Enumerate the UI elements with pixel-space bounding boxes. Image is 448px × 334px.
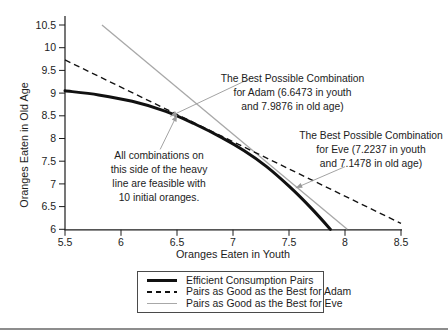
annotation-feasible-set: All combinations on this side of the hea… bbox=[99, 149, 219, 205]
y-tick-label: 9 bbox=[50, 87, 56, 99]
y-tick-label: 7.5 bbox=[41, 155, 56, 167]
x-axis-title: Oranges Eaten in Youth bbox=[176, 248, 290, 260]
y-tick-label: 7 bbox=[50, 178, 56, 190]
annotation-feasible-line2: this side of the heavy bbox=[99, 163, 219, 177]
x-tick-label: 7 bbox=[230, 236, 236, 248]
x-tick-label: 5.5 bbox=[58, 236, 73, 248]
adam-line-swatch bbox=[147, 291, 177, 293]
legend-item-eve: Pairs as Good as the Best for Eve bbox=[147, 298, 323, 309]
legend-item-efficient: Efficient Consumption Pairs bbox=[147, 275, 323, 286]
x-tick-label: 8 bbox=[342, 236, 348, 248]
y-tick-label: 6.5 bbox=[41, 200, 56, 212]
y-axis-title: Oranges Eaten in Old Age bbox=[18, 82, 30, 207]
y-tick-label: 10 bbox=[44, 41, 56, 53]
annotation-eve-line2: for Eve (7.2237 in youth bbox=[297, 143, 445, 157]
legend-label-eve: Pairs as Good as the Best for Eve bbox=[186, 298, 343, 309]
annotation-eve-line1: The Best Possible Combination bbox=[297, 129, 445, 143]
x-tick-label: 6 bbox=[118, 236, 124, 248]
annotation-eve-best: The Best Possible Combination for Eve (7… bbox=[297, 129, 445, 171]
annotation-adam-line1: The Best Possible Combination bbox=[210, 72, 375, 86]
legend: Efficient Consumption Pairs Pairs as Goo… bbox=[137, 271, 324, 313]
annotation-feasible-line4: 10 initial oranges. bbox=[99, 191, 219, 205]
x-tick-label: 8.5 bbox=[394, 236, 409, 248]
figure-efficient-consumption: 66.577.588.599.51010.55.566.577.588.5 Or… bbox=[0, 0, 448, 334]
legend-label-efficient: Efficient Consumption Pairs bbox=[186, 275, 313, 286]
legend-label-adam: Pairs as Good as the Best for Adam bbox=[186, 286, 351, 297]
annotation-adam-line3: and 7.9876 in old age) bbox=[210, 100, 375, 114]
x-tick-label: 7.5 bbox=[282, 236, 297, 248]
annotation-feasible-line1: All combinations on bbox=[99, 149, 219, 163]
y-tick-label: 9.5 bbox=[41, 64, 56, 76]
page-divider bbox=[0, 328, 448, 330]
y-tick-label: 10.5 bbox=[36, 19, 57, 31]
efficient-curve-swatch bbox=[147, 279, 177, 282]
annotation-adam-best: The Best Possible Combination for Adam (… bbox=[210, 72, 375, 114]
annotation-eve-line3: and 7.1478 in old age) bbox=[297, 157, 445, 171]
y-tick-label: 6 bbox=[50, 223, 56, 235]
x-tick-label: 6.5 bbox=[170, 236, 185, 248]
eve-leader-arrowhead-icon bbox=[296, 183, 303, 188]
legend-item-adam: Pairs as Good as the Best for Adam bbox=[147, 286, 323, 297]
annotation-adam-line2: for Adam (6.6473 in youth bbox=[210, 86, 375, 100]
y-tick-label: 8.5 bbox=[41, 109, 56, 121]
y-tick-label: 8 bbox=[50, 132, 56, 144]
annotation-feasible-line3: line are feasible with bbox=[99, 177, 219, 191]
eve-line-swatch bbox=[147, 303, 177, 305]
